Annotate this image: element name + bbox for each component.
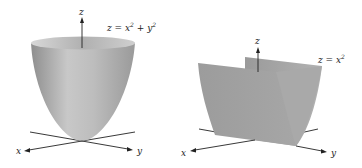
z-arrow-icon [256, 47, 260, 53]
z-axis-label: z [78, 7, 84, 17]
y-axis-label: y [136, 146, 143, 156]
x-axis [29, 141, 82, 150]
parabolic-cylinder-figure: z x y z = x2 [181, 36, 345, 158]
paraboloid-rim [31, 37, 135, 50]
paraboloid-equation: z = x2 + y2 [106, 21, 156, 33]
y-arrow-icon [127, 147, 133, 152]
figure-canvas: z x y z = x2 + y2 z x y z = x2 [0, 0, 362, 168]
y-axis-label: y [330, 148, 337, 158]
x-arrow-icon [190, 148, 196, 153]
z-axis-label: z [254, 36, 260, 46]
cylinder-equation: z = x2 [317, 53, 345, 65]
x-arrow-icon [24, 148, 30, 153]
y-arrow-icon [321, 149, 327, 154]
y-axis [82, 141, 128, 149]
paraboloid-figure: z x y z = x2 + y2 [16, 7, 156, 156]
x-axis-label: x [16, 146, 21, 156]
x-axis [195, 140, 255, 150]
y-axis [296, 146, 322, 151]
paraboloid-surface [31, 43, 135, 141]
z-arrow-icon [80, 17, 84, 23]
x-axis-label: x [181, 148, 186, 158]
